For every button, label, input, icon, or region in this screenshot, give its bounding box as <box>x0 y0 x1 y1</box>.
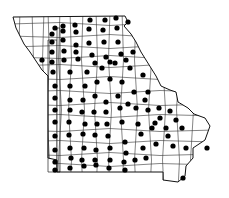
county-dot <box>140 72 145 77</box>
county-dot <box>145 107 150 112</box>
county-dot <box>163 125 168 130</box>
county-dot <box>132 157 137 162</box>
county-dot <box>107 157 112 162</box>
county-dot <box>73 49 78 54</box>
county-dot <box>86 26 91 31</box>
county-dot <box>118 51 123 56</box>
county-dot <box>92 93 97 98</box>
county-dot <box>117 105 122 110</box>
county-dot <box>149 125 154 130</box>
county-dot <box>167 108 172 113</box>
county-dot <box>81 163 86 168</box>
county-dot <box>131 89 136 94</box>
county-dot <box>103 99 108 104</box>
county-dot <box>105 133 110 138</box>
county-dot <box>165 133 170 138</box>
county-dot <box>179 125 184 130</box>
occurrence-dots <box>39 15 209 180</box>
county-dot <box>49 49 54 54</box>
county-dot <box>52 167 57 172</box>
county-dot <box>61 57 66 62</box>
county-dot <box>84 69 89 74</box>
county-dot <box>103 109 108 114</box>
county-dot <box>93 147 98 152</box>
county-dot <box>127 65 132 70</box>
county-dot <box>50 69 55 74</box>
county-dot <box>91 109 96 114</box>
county-dot <box>130 49 135 54</box>
county-dot <box>115 93 120 98</box>
county-dot <box>67 69 72 74</box>
county-dot <box>82 121 87 126</box>
county-dot <box>67 165 72 170</box>
county-dot <box>67 145 72 150</box>
county-dot <box>60 37 65 42</box>
county-dot <box>49 59 54 64</box>
county-dot <box>61 48 66 53</box>
county-dot <box>102 17 107 22</box>
county-dot <box>103 54 108 59</box>
county-dot <box>52 95 57 100</box>
county-dot <box>113 15 118 20</box>
county-dot <box>81 145 86 150</box>
county-dot <box>152 120 157 125</box>
county-dot <box>52 83 57 88</box>
county-dot <box>92 132 97 137</box>
county-dot <box>140 145 145 150</box>
county-dot <box>86 40 91 45</box>
county-dot <box>72 22 77 27</box>
county-dot <box>92 157 97 162</box>
county-dot <box>153 141 158 146</box>
county-dot <box>145 89 150 94</box>
county-dot <box>67 97 72 102</box>
county-dot <box>119 119 124 124</box>
county-dot <box>180 175 185 180</box>
county-dot <box>173 117 178 122</box>
county-dot <box>52 119 57 124</box>
county-dot <box>87 17 92 22</box>
county-dot <box>66 119 71 124</box>
county-dot <box>52 133 57 138</box>
county-dot <box>156 105 161 110</box>
county-dot <box>52 25 57 30</box>
county-dot <box>142 97 147 102</box>
county-dot <box>73 42 78 47</box>
county-dot <box>138 131 143 136</box>
county-dot <box>115 39 120 44</box>
county-dot <box>112 60 117 65</box>
county-dot <box>89 52 94 57</box>
county-dot <box>125 101 130 106</box>
county-dot <box>66 132 71 137</box>
county-dot <box>60 23 65 28</box>
county-dot <box>67 83 72 88</box>
county-dot <box>121 159 126 164</box>
county-dot <box>75 56 80 61</box>
county-dot <box>107 145 112 150</box>
county-dot <box>133 105 138 110</box>
county-dot <box>93 162 98 167</box>
county-dot <box>60 28 65 33</box>
county-dot <box>49 31 54 36</box>
county-dot <box>101 39 106 44</box>
county-dot <box>135 121 140 126</box>
county-dot <box>73 29 78 34</box>
county-dot <box>100 27 105 32</box>
county-dot <box>99 65 104 70</box>
county-dot <box>79 157 84 162</box>
county-boundaries <box>10 10 215 190</box>
county-dot <box>80 131 85 136</box>
county-dot <box>170 143 175 148</box>
county-dot <box>94 121 99 126</box>
county-dot <box>107 76 112 81</box>
county-dot <box>92 60 97 65</box>
county-dot <box>39 57 44 62</box>
county-dot <box>68 155 73 160</box>
county-dot <box>119 79 124 84</box>
county-dot <box>183 145 188 150</box>
county-dot <box>123 57 128 62</box>
county-dot <box>79 109 84 114</box>
county-dot <box>106 165 111 170</box>
state-outline <box>13 16 210 182</box>
county-dot <box>49 39 54 44</box>
county-dot <box>143 155 148 160</box>
